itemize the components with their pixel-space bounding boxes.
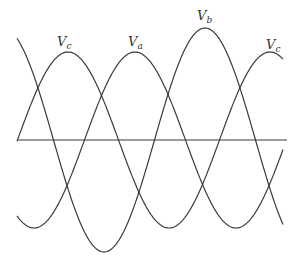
label-vc-right: Vc: [266, 38, 280, 54]
label-vb: Vb: [197, 9, 212, 25]
label-vc-left: Vc: [57, 35, 71, 51]
label-va: Va: [128, 35, 143, 51]
waveform-diagram: [0, 0, 301, 262]
